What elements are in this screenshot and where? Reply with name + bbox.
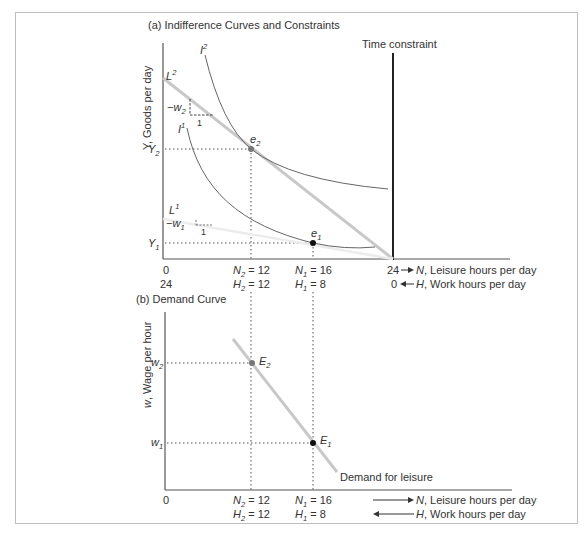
a-n-arrowhead-icon [408,267,414,273]
y2-tick-label: Y2 [148,143,160,158]
point-e1 [310,240,316,246]
e1-label: e1 [311,227,321,242]
slope-w2-label: −w2 [167,101,186,116]
point-E2 [249,360,255,366]
indifference-curve-i1 [187,128,375,248]
slope-w2-run-label: 1 [197,118,202,128]
b-n-tick-0: 0 [163,494,169,506]
slope-w1-label: −w1 [166,217,185,232]
y1-tick-label: Y1 [148,237,160,252]
e2-label: e2 [250,133,261,148]
a-n-axis-label: N, Leisure hours per day [416,264,537,276]
demand-curve [233,339,337,472]
a-n-tick-n2: N2 = 12 [233,264,270,279]
b-n-axis-label: N, Leisure hours per day [416,494,537,506]
i2-label: I2 [200,42,208,56]
w1-tick-label: w1 [151,436,163,451]
panel-b-title: (b) Demand Curve [136,293,226,305]
i1-label: I1 [178,121,185,135]
point-E1 [310,440,316,446]
E2-label: E2 [259,355,271,370]
E1-label: E1 [320,434,332,449]
a-h-tick-h1: H1 = 8 [295,278,326,293]
b-h-arrowhead-icon [373,511,379,517]
a-n-axis-end: 24 [387,264,399,276]
l1-label: L1 [169,202,179,216]
l2-label: L2 [166,68,177,82]
a-h-axis-label: H, Work hours per day [416,278,526,290]
a-h-arrowhead-icon [400,281,406,287]
a-n-tick-0: 0 [163,264,169,276]
panel-a-y-axis-label: Y, Goods per day [141,65,153,150]
a-n-tick-n1: N1 = 16 [295,264,332,279]
b-n-arrowhead-icon [408,497,414,503]
demand-label: Demand for leisure [340,471,433,483]
point-e2 [248,146,254,152]
b-h-tick-h1: H1 = 8 [295,508,326,523]
b-n-tick-n1: N1 = 16 [295,494,332,509]
panel-a-title: (a) Indifference Curves and Constraints [148,19,340,31]
b-h-tick-h2: H2 = 12 [233,508,270,523]
b-n-tick-n2: N2 = 12 [233,494,270,509]
time-constraint-label: Time constraint [362,38,437,50]
a-h-tick-24: 24 [160,278,172,290]
a-h-tick-h2: H2 = 12 [233,278,270,293]
b-h-axis-label: H, Work hours per day [416,508,526,520]
a-h-axis-end: 0 [391,278,397,290]
slope-w1-run-label: 1 [201,227,206,237]
indifference-curve-i2 [205,55,388,189]
leisure-demand-diagram: (a) Indifference Curves and Constraints … [0,0,588,536]
